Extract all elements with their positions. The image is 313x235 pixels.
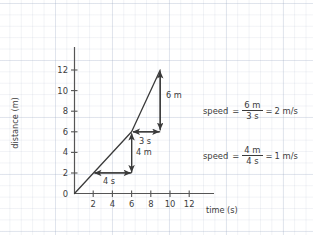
origin-label: 0 (50, 190, 68, 198)
x-tick-label-4: 4 (104, 200, 120, 208)
fraction-denominator-lower: 4 s (244, 156, 260, 165)
y-tick-label-4: 4 (50, 148, 68, 156)
y-tick-label-12: 12 (50, 66, 68, 74)
annotation-label-4m: 4 m (136, 147, 152, 157)
fraction-upper: 6 m 3 s (242, 101, 262, 121)
equals-sign-upper: = (232, 106, 239, 116)
annotation-label-4s: 4 s (103, 176, 115, 186)
x-tick-label-2: 2 (85, 200, 101, 208)
y-tick-label-6: 6 (50, 128, 68, 136)
y-tick-label-2: 2 (50, 169, 68, 177)
y-axis-title: distance (m) (10, 88, 20, 158)
x-tick-label-10: 10 (162, 200, 178, 208)
result-equals-lower: = (266, 151, 273, 161)
equals-sign-lower: = (232, 151, 239, 161)
y-tick-label-8: 8 (50, 107, 68, 115)
y-tick-label-10: 10 (50, 87, 68, 95)
result-equals-upper: = (266, 106, 273, 116)
x-tick-label-8: 8 (143, 200, 159, 208)
x-axis-title: time (s) (206, 205, 238, 215)
speed-formula-upper: speed = 6 m 3 s = 2 m/s (203, 101, 298, 121)
annotation-label-6m: 6 m (166, 90, 182, 100)
figure-root: 12 10 8 6 4 2 0 2 4 6 8 10 12 time (s) d… (0, 0, 313, 235)
speed-formula-lower: speed = 4 m 4 s = 1 m/s (203, 146, 298, 166)
speed-result-lower: 1 m/s (275, 151, 298, 161)
speed-result-upper: 2 m/s (275, 106, 298, 116)
fraction-lower: 4 m 4 s (242, 146, 262, 166)
x-tick-label-12: 12 (181, 200, 197, 208)
fraction-numerator-upper: 6 m (242, 101, 262, 111)
x-tick-label-6: 6 (124, 200, 140, 208)
annotation-label-3s: 3 s (139, 136, 151, 146)
fraction-denominator-upper: 3 s (244, 111, 260, 120)
fraction-numerator-lower: 4 m (242, 146, 262, 156)
speed-word-upper: speed (203, 106, 228, 116)
speed-word-lower: speed (203, 151, 228, 161)
